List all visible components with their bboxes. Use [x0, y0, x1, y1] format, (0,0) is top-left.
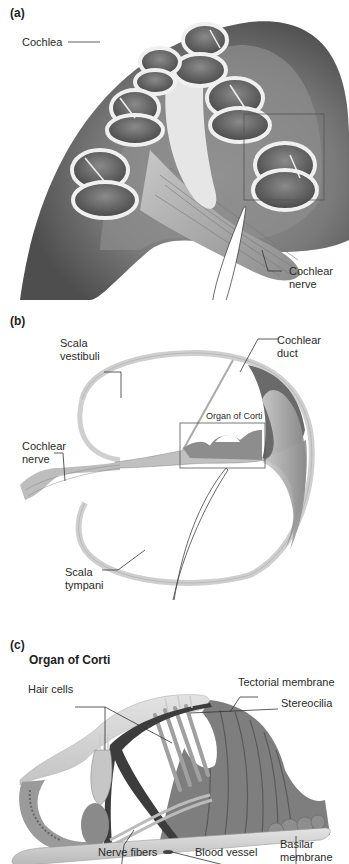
label-basilar-membrane-1: Basilar [280, 838, 314, 850]
label-scala-tympani-1: Scala [65, 566, 93, 578]
organ-of-corti-title: Organ of Corti [29, 653, 110, 667]
label-cochlea: Cochlea [22, 36, 62, 48]
label-basilar-membrane-2: membrane [280, 851, 333, 863]
label-cochlear-duct-1: Cochlear [277, 334, 321, 346]
panel-c: (c) Organ of Corti Tectorial membrane Ha… [0, 600, 349, 864]
label-scala-vestibuli-1: Scala [60, 337, 88, 349]
panel-a: (a) Cochlea Cochlear nerve [0, 0, 349, 300]
label-organ-of-corti-b: Organ of Corti [206, 410, 263, 422]
label-cochlear-nerve-b-1: Cochlear [22, 440, 66, 452]
panel-label-b: (b) [10, 314, 25, 328]
label-cochlear-duct-2: duct [277, 347, 298, 359]
label-blood-vessel: Blood vessel [195, 846, 257, 858]
label-scala-vestibuli-2: vestibuli [60, 350, 100, 362]
organ-of-corti-illustration [0, 600, 349, 864]
label-hair-cells: Hair cells [28, 683, 73, 695]
label-cochlear-nerve-b-2: nerve [22, 453, 50, 465]
label-stereocilia: Stereocilia [281, 697, 332, 709]
panel-b: (b) Scala vestibuli Cochlear duct Organ … [0, 300, 349, 600]
label-cochlear-nerve-a-1: Cochlear [289, 265, 333, 277]
panel-label-a: (a) [10, 6, 25, 20]
label-nerve-fibers: Nerve fibers [98, 846, 157, 858]
panel-label-c: (c) [10, 638, 25, 652]
label-tectorial-membrane: Tectorial membrane [238, 676, 335, 688]
label-cochlear-nerve-a-2: nerve [289, 278, 317, 290]
label-scala-tympani-2: tympani [65, 579, 104, 591]
